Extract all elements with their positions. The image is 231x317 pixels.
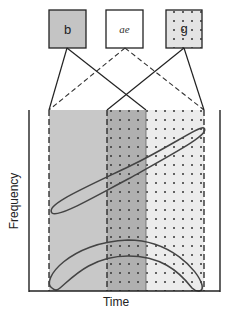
connector-b-right [67,48,146,110]
connector-ae-left [49,48,125,110]
y-axis-label: Frequency [7,173,21,230]
region-b [49,110,107,291]
connector-ae-right [125,48,204,110]
connector-g-left [107,48,184,110]
box-ae: ae [106,10,143,48]
plot-regions [49,110,204,291]
connector-g-right [184,48,204,110]
box-g: g [166,10,202,48]
connectors [49,48,204,110]
x-axis-label: Time [103,295,130,309]
diagram-canvas: b ae g Ti [0,0,231,317]
box-ae-label: ae [119,23,130,35]
box-b: b [49,10,86,48]
box-g-label: g [180,21,187,36]
box-b-label: b [64,22,71,37]
connector-b-left [49,48,67,110]
